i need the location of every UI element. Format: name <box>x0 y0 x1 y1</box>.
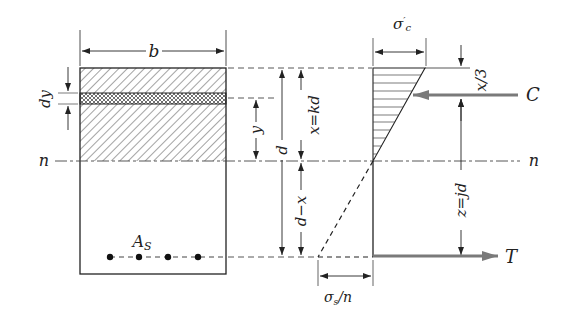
jd-label: z=jd <box>452 183 470 219</box>
compression-force-label: C <box>526 84 540 105</box>
y-label: y <box>247 125 265 135</box>
steel-bars <box>107 254 226 260</box>
concrete-stress-dimension <box>373 38 426 66</box>
d-minus-x-label: d−x <box>292 195 310 226</box>
concrete-stress-label: σ′c <box>393 15 412 33</box>
steel-stress-dimension <box>318 260 373 286</box>
dy-dimension <box>58 67 78 130</box>
steel-stress-line <box>318 161 373 257</box>
beam-stress-diagram: b dy n n y d x=kd d−x x/3 z=jd AS σ′c σs… <box>0 0 566 321</box>
compression-zone-hatch <box>80 68 226 161</box>
width-label: b <box>149 41 160 61</box>
d-label: d <box>273 145 291 155</box>
tension-force-label: T <box>505 246 519 267</box>
compression-stress-triangle <box>373 68 425 161</box>
n-left-label: n <box>39 151 49 170</box>
dy-label: dy <box>36 89 54 108</box>
beam-cross-section <box>80 68 226 274</box>
n-right-label: n <box>529 151 539 170</box>
stress-diagram <box>318 68 425 257</box>
steel-stress-label: σs/n <box>324 289 352 307</box>
kd-label: x=kd <box>305 95 323 135</box>
x-third-label: x/3 <box>472 68 490 91</box>
steel-area-label: AS <box>130 232 152 253</box>
